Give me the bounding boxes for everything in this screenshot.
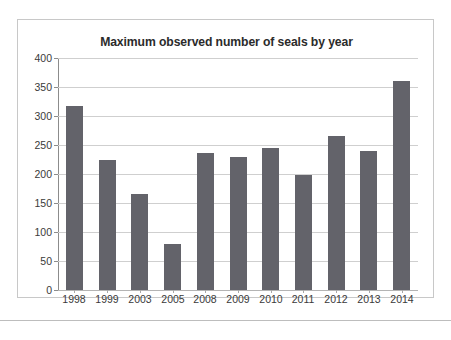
- bar: [393, 81, 410, 290]
- bar: [295, 175, 312, 290]
- gridline: [58, 145, 418, 146]
- y-tick-mark: [54, 58, 58, 59]
- y-tick-label: 150: [14, 198, 52, 209]
- bar: [99, 160, 116, 290]
- chart-frame: Maximum observed number of seals by year…: [17, 19, 434, 298]
- bar: [360, 151, 377, 290]
- bar: [328, 136, 345, 290]
- y-tick-mark: [54, 87, 58, 88]
- y-tick-mark: [54, 232, 58, 233]
- y-tick-label-text: 100: [20, 227, 52, 238]
- bar: [131, 194, 148, 290]
- y-tick-label-text: 0: [20, 285, 52, 296]
- bottom-separator-rule: [0, 320, 451, 321]
- y-tick-label: 250: [14, 140, 52, 151]
- y-tick-label: 300: [14, 111, 52, 122]
- y-tick-label-text: 50: [20, 256, 52, 267]
- y-tick-mark: [54, 203, 58, 204]
- gridline: [58, 58, 418, 59]
- y-tick-mark: [54, 116, 58, 117]
- gridline: [58, 87, 418, 88]
- y-tick-label: 200: [14, 169, 52, 180]
- y-tick-label-text: 400: [20, 53, 52, 64]
- bar: [230, 157, 247, 290]
- y-tick-label-text: 250: [20, 140, 52, 151]
- y-tick-label: 350: [14, 82, 52, 93]
- y-tick-mark: [54, 261, 58, 262]
- y-tick-label: 100: [14, 227, 52, 238]
- y-tick-label-text: 150: [20, 198, 52, 209]
- y-tick-label-text: 300: [20, 111, 52, 122]
- bar: [262, 148, 279, 290]
- y-tick-label-text: 350: [20, 82, 52, 93]
- y-tick-mark: [54, 174, 58, 175]
- y-tick-label: 0: [14, 285, 52, 296]
- x-tick-label: 2014: [382, 294, 422, 305]
- y-tick-mark: [54, 145, 58, 146]
- bar: [197, 153, 214, 290]
- bar: [66, 106, 83, 290]
- bar: [164, 244, 181, 290]
- y-tick-label: 50: [14, 256, 52, 267]
- y-tick-label: 400: [14, 53, 52, 64]
- chart-title: Maximum observed number of seals by year: [18, 35, 435, 49]
- y-tick-mark: [54, 290, 58, 291]
- y-tick-label-text: 200: [20, 169, 52, 180]
- gridline: [58, 116, 418, 117]
